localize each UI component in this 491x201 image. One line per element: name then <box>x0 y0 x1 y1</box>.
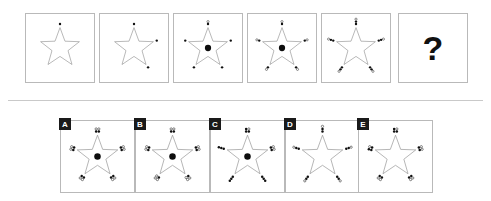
vertex-dot-outlined <box>71 146 73 148</box>
option-label-d[interactable]: D <box>284 118 296 130</box>
vertex-dot-outlined <box>156 175 158 177</box>
vertex-dot-outlined <box>304 180 306 182</box>
vertex-dot-outlined <box>355 18 357 20</box>
star-figure <box>61 121 134 192</box>
vertex-dot-filled <box>355 20 357 22</box>
vertex-dot-outlined <box>421 148 423 150</box>
vertex-dot-outlined <box>146 146 148 148</box>
option-label-e[interactable]: E <box>357 118 369 130</box>
vertex-dot-outlined <box>81 178 83 180</box>
vertex-dot-outlined <box>198 148 200 150</box>
sequence-panel-1 <box>25 13 95 83</box>
vertex-dot-filled <box>230 178 232 180</box>
vertex-dot-outlined <box>207 21 209 23</box>
vertex-dot-filled <box>368 148 370 150</box>
vertex-dot-outlined <box>412 177 414 179</box>
vertex-dot-outlined <box>197 146 199 148</box>
option-label-c[interactable]: C <box>209 118 221 130</box>
vertex-dot-outlined <box>420 146 422 148</box>
vertex-dot-outlined <box>396 128 398 130</box>
option-c[interactable] <box>210 120 285 193</box>
vertex-dot-filled <box>330 39 332 41</box>
vertex-dot-filled <box>336 175 338 177</box>
vertex-dot-filled <box>262 178 264 180</box>
question-mark: ? <box>399 14 467 82</box>
vertex-dot-outlined <box>273 148 275 150</box>
vertex-dot-filled <box>147 66 149 68</box>
analogy-puzzle: ?ABCDE <box>0 0 491 201</box>
vertex-dot-outlined <box>98 128 100 130</box>
vertex-dot-filled <box>321 128 323 130</box>
vertex-dot-outlined <box>372 70 374 72</box>
vertex-dot-outlined <box>369 146 371 148</box>
vertex-dot-outlined <box>382 38 384 40</box>
vertex-dot-filled <box>347 147 349 149</box>
vertex-dot-outlined <box>95 128 97 130</box>
vertex-dot-filled <box>222 148 224 150</box>
vertex-dot-filled <box>221 66 223 68</box>
vertex-dot-filled <box>133 23 135 25</box>
vertex-dot-outlined <box>70 148 72 150</box>
option-label-b[interactable]: B <box>134 118 146 130</box>
vertex-dot-filled <box>229 180 231 182</box>
vertex-dot-filled <box>378 39 380 41</box>
center-dot <box>169 153 176 160</box>
vertex-dot-filled <box>321 130 323 132</box>
vertex-dot-filled <box>341 66 343 68</box>
vertex-dot-outlined <box>154 177 156 179</box>
vertex-dot-filled <box>281 23 283 25</box>
vertex-dot-outlined <box>122 146 124 148</box>
option-d[interactable] <box>285 120 360 193</box>
sequence-panel-5 <box>321 13 391 83</box>
vertex-dot-outlined <box>293 146 295 148</box>
vertex-dot-filled <box>261 175 263 177</box>
star-outline <box>337 28 376 65</box>
vertex-dot-outlined <box>173 128 175 130</box>
option-b[interactable] <box>135 120 210 193</box>
vertex-dot-filled <box>207 23 209 25</box>
option-label-a[interactable]: A <box>59 118 71 130</box>
vertex-dot-filled <box>120 146 122 148</box>
vertex-dot-filled <box>295 147 297 149</box>
vertex-dot-outlined <box>350 146 352 148</box>
vertex-dot-filled <box>258 39 260 41</box>
vertex-dot-filled <box>270 149 272 151</box>
star-outline <box>115 28 154 65</box>
vertex-dot-filled <box>170 130 172 132</box>
sequence-panel-3 <box>173 13 243 83</box>
vertex-dot-filled <box>371 146 373 148</box>
star-outline <box>375 135 416 174</box>
vertex-dot-outlined <box>377 177 379 179</box>
option-a[interactable] <box>60 120 135 193</box>
vertex-dot-outlined <box>272 146 274 148</box>
center-dot <box>279 45 285 51</box>
vertex-dot-filled <box>270 146 272 148</box>
option-e[interactable] <box>358 120 433 193</box>
vertex-dot-outlined <box>114 177 116 179</box>
vertex-dot-filled <box>418 149 420 151</box>
vertex-dot-outlined <box>123 148 125 150</box>
vertex-dot-filled <box>147 149 149 151</box>
star-figure <box>174 14 242 82</box>
star-figure <box>211 121 284 192</box>
row-divider <box>8 100 483 101</box>
vertex-dot-outlined <box>145 148 147 150</box>
vertex-dot-filled <box>195 149 197 151</box>
sequence-panel-missing: ? <box>398 13 468 83</box>
center-dot <box>205 45 211 51</box>
vertex-dot-filled <box>195 146 197 148</box>
vertex-dot-filled <box>156 39 158 41</box>
vertex-dot-outlined <box>321 125 323 127</box>
vertex-dot-filled <box>218 146 220 148</box>
star-figure <box>136 121 209 192</box>
vertex-dot-filled <box>173 130 175 132</box>
sequence-panel-2 <box>99 13 169 83</box>
vertex-dot-filled <box>230 39 232 41</box>
star-outline <box>302 135 343 174</box>
star-outline <box>41 28 80 65</box>
star-figure <box>286 121 359 192</box>
vertex-dot-outlined <box>296 68 298 70</box>
vertex-dot-filled <box>380 39 382 41</box>
vertex-dot-outlined <box>281 21 283 23</box>
vertex-dot-filled <box>148 146 150 148</box>
